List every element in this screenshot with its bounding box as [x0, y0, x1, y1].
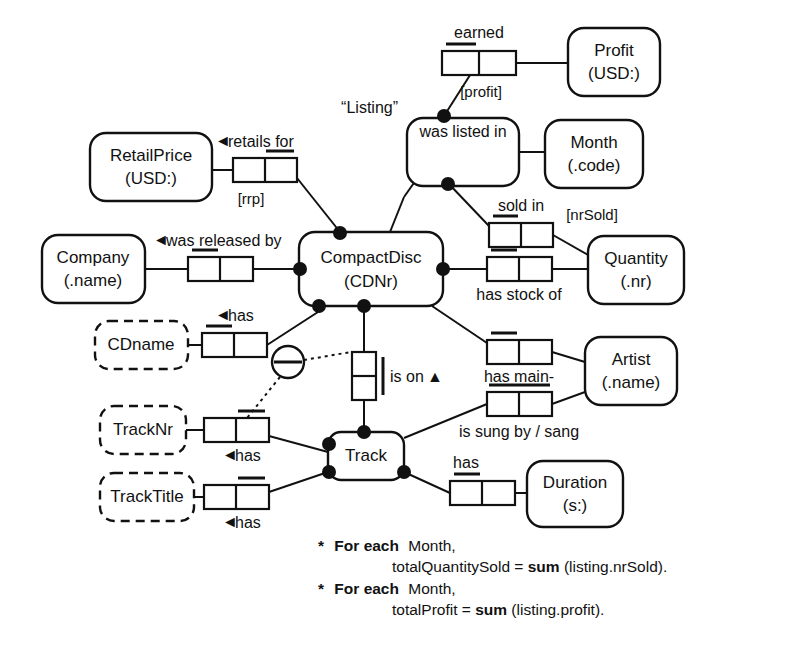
- rule-2-prefix: For each: [334, 580, 399, 597]
- derivation-rules: * For each Month, totalQuantitySold = su…: [318, 537, 667, 618]
- rolebox-has-stock-of: [487, 250, 552, 281]
- entity-month[interactable]: [545, 120, 643, 188]
- orm-diagram-canvas: Profit (USD:) Month (.code) RetailPrice …: [0, 0, 790, 652]
- label-compactdisc-line2: (CDNr): [344, 272, 398, 291]
- label-profit-line2: (USD:): [588, 64, 640, 83]
- label-company-line1: Company: [57, 248, 130, 267]
- connector-has-cd: [267, 312, 318, 345]
- label-company-line2: (.name): [64, 271, 123, 290]
- rule-2-line-1: * For each Month,: [318, 580, 456, 597]
- entity-quantity[interactable]: [588, 236, 684, 304]
- mandatory-dot-cd-right: [436, 262, 450, 276]
- rule-2-body-fn: sum: [475, 601, 507, 618]
- orm-diagram-svg: Profit (USD:) Month (.code) RetailPrice …: [0, 0, 790, 652]
- label-listing-name: “Listing”: [341, 99, 398, 116]
- label-month-line1: Month: [570, 133, 617, 152]
- rolebox-is-sung-by: [487, 385, 552, 416]
- rolebox-sold-in: [489, 216, 553, 247]
- entity-retailprice[interactable]: [90, 133, 212, 201]
- mandatory-dot-track-top: [357, 425, 371, 439]
- label-duration-line2: (s:): [563, 496, 588, 515]
- reading-mark-is-on: ▲: [427, 368, 443, 385]
- rule-1-body-fn: sum: [528, 558, 560, 575]
- rule-2-marker: *: [318, 580, 325, 597]
- rule-1-body-pre: totalQuantitySold =: [392, 558, 528, 575]
- rolebox-was-released-by: [188, 250, 253, 281]
- entity-compactdisc[interactable]: [299, 232, 443, 306]
- rule-1-body-post: (listing.nrSold).: [564, 558, 667, 575]
- rolebox-has-tracktitle: [204, 478, 269, 509]
- mandatory-dot-cd-bc: [357, 299, 371, 313]
- connector-track-hasdur: [404, 472, 450, 493]
- label-predicate-sold-in: sold in: [498, 197, 544, 214]
- label-predicate-has-tracktitle: has: [235, 514, 261, 531]
- connector-hasmain-artist: [552, 352, 585, 362]
- label-predicate-has-stock-of: has stock of: [476, 286, 562, 303]
- label-profit-line1: Profit: [594, 41, 634, 60]
- role-name-nrsold: [nrSold]: [566, 206, 618, 223]
- rolebox-has-duration: [450, 474, 515, 505]
- label-quantity-line1: Quantity: [604, 249, 668, 268]
- rule-1-prefix: For each: [334, 537, 399, 554]
- rule-2-line-2: totalProfit = sum (listing.profit).: [392, 601, 604, 618]
- label-was-listed-in: was listed in: [418, 123, 506, 140]
- rule-1-marker: *: [318, 537, 325, 554]
- label-track: Track: [345, 446, 387, 465]
- label-month-line2: (.code): [568, 156, 621, 175]
- label-compactdisc-line1: CompactDisc: [320, 248, 422, 267]
- mandatory-dot-track-bl: [322, 465, 336, 479]
- entity-artist[interactable]: [585, 337, 677, 405]
- label-predicate-earned: earned: [454, 24, 504, 41]
- label-cdname: CDname: [107, 335, 174, 354]
- rule-2-scope: Month,: [408, 580, 455, 597]
- connector-has-track: [269, 436, 328, 452]
- label-quantity-line2: (.nr): [620, 272, 651, 291]
- label-predicate-was-released-by: was released by: [165, 232, 282, 249]
- connector-retails-cd: [297, 178, 340, 232]
- rule-1-scope: Month,: [408, 537, 455, 554]
- label-predicate-has-tracknr: has: [235, 447, 261, 464]
- connector-listing-soldin: [448, 183, 489, 226]
- label-artist-line1: Artist: [612, 350, 651, 369]
- rule-1-line-2: totalQuantitySold = sum (listing.nrSold)…: [392, 558, 667, 575]
- label-predicate-has-cdname: has: [228, 307, 254, 324]
- rule-1-line-1: * For each Month,: [318, 537, 456, 554]
- role-name-rrp: [rrp]: [238, 190, 265, 207]
- mandatory-dot-cd-bl: [312, 299, 326, 313]
- label-tracktitle: TrackTitle: [110, 487, 183, 506]
- rolebox-retails-for: [233, 151, 297, 182]
- rolebox-is-on: [352, 352, 383, 400]
- label-duration-line1: Duration: [543, 473, 607, 492]
- label-retailprice-line2: (USD:): [125, 169, 177, 188]
- connector-listedin-cd2: [390, 197, 404, 232]
- label-artist-line2: (.name): [602, 373, 661, 392]
- label-predicate-has-main: has main-: [484, 368, 554, 385]
- rolebox-has-tracknr: [204, 411, 269, 442]
- entity-company[interactable]: [42, 235, 145, 303]
- role-name-profit: [profit]: [460, 83, 502, 100]
- label-predicate-is-sung-by: is sung by / sang: [459, 423, 579, 440]
- label-tracknr: TrackNr: [113, 420, 173, 439]
- connector-issung-artist: [552, 392, 585, 404]
- rule-2-body-post: (listing.profit).: [511, 601, 604, 618]
- mandatory-dot-listing-bottom: [441, 177, 455, 191]
- connector-soldin-quantity: [553, 235, 590, 256]
- mandatory-dot-track-br: [397, 465, 411, 479]
- mandatory-dot-listing-top: [437, 109, 451, 123]
- entity-duration[interactable]: [527, 461, 623, 527]
- mandatory-dot-track-tl: [322, 437, 336, 451]
- rolebox-earned: [442, 44, 516, 75]
- label-predicate-retails-for: retails for: [228, 133, 294, 150]
- entity-profit[interactable]: [568, 28, 660, 96]
- connector-has2-track: [269, 472, 328, 492]
- rule-2-body-pre: totalProfit =: [392, 601, 475, 618]
- constraint-link-to-ison: [304, 352, 351, 360]
- label-retailprice-line1: RetailPrice: [110, 146, 192, 165]
- mandatory-dot-cd-left: [293, 262, 307, 276]
- label-predicate-has-duration: has: [453, 454, 479, 471]
- rolebox-has-cdname: [202, 326, 267, 357]
- rolebox-has-main: [487, 333, 552, 364]
- label-predicate-is-on: is on: [390, 368, 424, 385]
- mandatory-dot-cd-top: [333, 226, 347, 240]
- connector-cd-hasmain: [432, 306, 487, 343]
